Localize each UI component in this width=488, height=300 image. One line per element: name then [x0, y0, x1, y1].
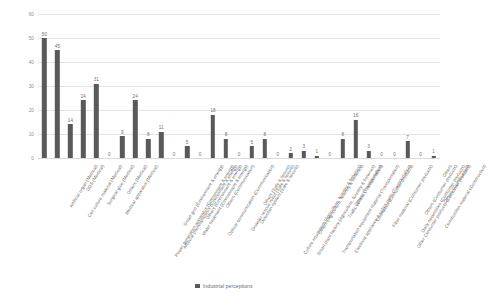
y-axis-tick-label: 20 [29, 108, 34, 113]
bar-group[interactable]: 0 [375, 14, 388, 158]
y-axis-tick-label: 10 [29, 132, 34, 137]
bar-value-label: 0 [199, 152, 202, 157]
bar[interactable] [133, 100, 137, 158]
bar-group[interactable]: 3 [297, 14, 310, 158]
bar-value-label: 0 [380, 152, 383, 157]
bar-group[interactable]: 14 [64, 14, 77, 158]
bar-value-label: 50 [42, 32, 47, 37]
bar-group[interactable]: 16 [349, 14, 362, 158]
bar[interactable] [366, 151, 370, 158]
bar-value-label: 3 [367, 144, 370, 149]
bar-group[interactable]: 8 [258, 14, 271, 158]
bar-value-label: 8 [147, 132, 150, 137]
bar-value-label: 8 [341, 132, 344, 137]
bar[interactable] [42, 38, 46, 158]
bar-group[interactable]: 0 [194, 14, 207, 158]
bar-value-label: 14 [68, 118, 73, 123]
bar[interactable] [211, 115, 215, 158]
bar[interactable] [302, 151, 306, 158]
bar[interactable] [159, 132, 163, 158]
bar-group[interactable]: 11 [155, 14, 168, 158]
legend-swatch-icon [195, 284, 200, 289]
bar-value-label: 45 [55, 44, 60, 49]
x-axis-line [38, 158, 440, 159]
bar-value-label: 1 [315, 149, 318, 154]
bar[interactable] [81, 100, 85, 158]
bar-group[interactable]: 18 [207, 14, 220, 158]
bar-group[interactable]: 1 [310, 14, 323, 158]
bar-value-label: 0 [393, 152, 396, 157]
bar-value-label: 0 [108, 152, 111, 157]
bar-group[interactable]: 31 [90, 14, 103, 158]
bar-value-label: 0 [173, 152, 176, 157]
bar-group[interactable]: 2 [284, 14, 297, 158]
bar-group[interactable]: 0 [414, 14, 427, 158]
bar-group[interactable]: 9 [116, 14, 129, 158]
bar-value-label: 0 [238, 152, 241, 157]
bar[interactable] [55, 50, 59, 158]
x-tick-labels: Artificial organ (Medical)Cell culture m… [38, 160, 440, 272]
bar-group[interactable]: 0 [168, 14, 181, 158]
bar[interactable] [94, 84, 98, 158]
bar-value-label: 24 [133, 94, 138, 99]
bar-value-label: 2 [290, 147, 293, 152]
bar-group[interactable]: 50 [38, 14, 51, 158]
bar-group[interactable]: 0 [271, 14, 284, 158]
bar-group[interactable]: 0 [233, 14, 246, 158]
bar-value-label: 11 [159, 125, 164, 130]
bar-value-label: 0 [328, 152, 331, 157]
bar[interactable] [120, 136, 124, 158]
legend-label: Industrial perceptions [203, 283, 253, 289]
bar-value-label: 24 [81, 94, 86, 99]
bar[interactable] [353, 120, 357, 158]
bar-group[interactable]: 0 [323, 14, 336, 158]
bar-value-label: 0 [419, 152, 422, 157]
bar-value-label: 7 [406, 135, 409, 140]
bar-value-label: 9 [121, 130, 124, 135]
bar-group[interactable]: 24 [77, 14, 90, 158]
bar-value-label: 5 [251, 140, 254, 145]
bar[interactable] [68, 124, 72, 158]
legend: Industrial perceptions [0, 283, 448, 289]
bar-value-label: 18 [210, 108, 215, 113]
bar[interactable] [185, 146, 189, 158]
y-axis-tick-label: 60 [29, 12, 34, 17]
y-axis-tick-label: 0 [31, 156, 34, 161]
bar-group[interactable]: 1 [427, 14, 440, 158]
bar-group[interactable]: 3 [362, 14, 375, 158]
bar[interactable] [405, 141, 409, 158]
bar-group[interactable]: 8 [142, 14, 155, 158]
bar-value-label: 3 [302, 144, 305, 149]
bar-value-label: 31 [94, 77, 99, 82]
bar[interactable] [263, 139, 267, 158]
bar[interactable] [341, 139, 345, 158]
bar-group[interactable]: 5 [245, 14, 258, 158]
bar-group[interactable]: 0 [388, 14, 401, 158]
bar-group[interactable]: 0 [103, 14, 116, 158]
bars-layer: 5045142431092481105018805802310816300701 [38, 14, 440, 158]
bar-value-label: 16 [353, 113, 358, 118]
y-axis-tick-label: 30 [29, 84, 34, 89]
bar-value-label: 8 [264, 132, 267, 137]
y-axis-tick-label: 40 [29, 60, 34, 65]
bar-group[interactable]: 8 [220, 14, 233, 158]
bar[interactable] [146, 139, 150, 158]
bar-value-label: 5 [186, 140, 189, 145]
bar-value-label: 0 [277, 152, 280, 157]
bar-value-label: 1 [432, 149, 435, 154]
bar-value-label: 8 [225, 132, 228, 137]
plot-area: 0102030405060 50451424310924811050188058… [38, 14, 440, 158]
bar[interactable] [250, 146, 254, 158]
bar-group[interactable]: 24 [129, 14, 142, 158]
bar-group[interactable]: 8 [336, 14, 349, 158]
bar-group[interactable]: 5 [181, 14, 194, 158]
bar-group[interactable]: 7 [401, 14, 414, 158]
bar[interactable] [224, 139, 228, 158]
bar-group[interactable]: 45 [51, 14, 64, 158]
y-axis-tick-label: 50 [29, 36, 34, 41]
